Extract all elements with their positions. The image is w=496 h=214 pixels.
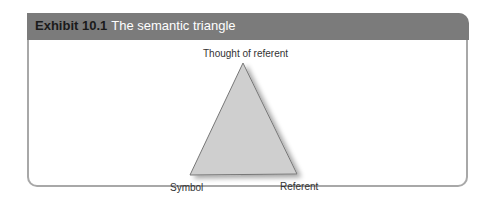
label-symbol: Symbol [170, 182, 203, 193]
label-referent: Referent [280, 181, 318, 192]
semantic-triangle-diagram [0, 0, 496, 214]
triangle-shape [190, 63, 297, 175]
label-thought-of-referent: Thought of referent [203, 48, 288, 59]
